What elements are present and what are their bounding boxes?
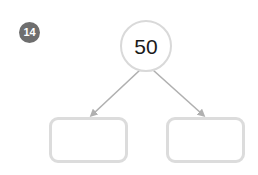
question-number-badge: 14 [19, 22, 40, 43]
number-bond-root-node: 50 [120, 20, 172, 72]
root-node-value: 50 [134, 36, 157, 57]
answer-box-right-value[interactable] [169, 120, 242, 160]
answer-box-left[interactable] [49, 117, 128, 163]
question-number-label: 14 [24, 27, 36, 38]
arrow-to-right-box-line [153, 70, 202, 114]
arrow-to-left-box-line [93, 70, 140, 114]
answer-box-right[interactable] [166, 117, 245, 163]
answer-box-left-value[interactable] [52, 120, 125, 160]
worksheet-canvas: 14 50 [0, 0, 258, 175]
